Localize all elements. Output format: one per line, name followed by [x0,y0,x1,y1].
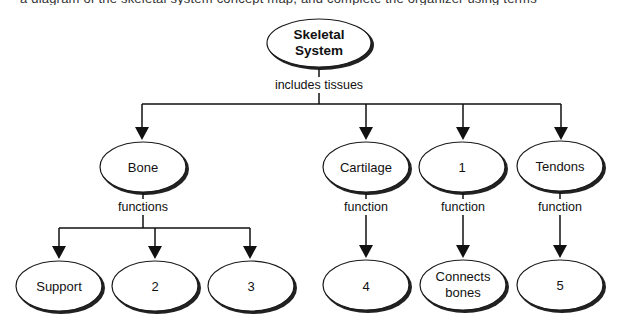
node-label: Support [36,279,82,294]
node-label-line2: bones [445,285,481,300]
arrowhead-icon [456,245,470,258]
node-label: 5 [556,278,563,293]
node-label-line1: Skeletal [293,27,344,42]
node-2: 2 [112,261,201,314]
node-4: 4 [323,260,412,313]
arrowhead-icon [148,246,162,259]
arrow-to-2 [148,228,162,259]
arrowhead-icon [243,246,257,259]
arrow-to-blank-1 [456,104,470,140]
arrowhead-icon [135,127,149,140]
node-cartilage: Cartilage [323,142,412,195]
arrowhead-icon [359,245,373,258]
node-label: 3 [247,279,254,294]
arrow-to-4 [359,215,373,258]
arrow-to-5 [553,215,567,258]
node-connects-bones: Connects bones [420,260,509,313]
arrow-to-3 [243,228,257,259]
arrowhead-icon [553,245,567,258]
node-label: Cartilage [340,160,392,175]
concept-map: Skeletal System includes tissues Bone Ca… [0,0,623,328]
arrow-to-bone [135,104,149,140]
node-5: 5 [517,260,606,313]
node-label: Bone [128,160,158,175]
arrow-to-tendons [554,104,568,140]
link-label-functions: functions [118,200,168,214]
node-label-line1: Connects [436,269,491,284]
node-skeletal-system: Skeletal System [267,19,374,70]
link-label-function: function [441,200,485,214]
arrowhead-icon [456,127,470,140]
link-label-function: function [344,200,388,214]
link-label-includes-tissues: includes tissues [275,78,363,92]
arrow-to-cartilage [359,104,373,140]
link-label-function: function [538,200,582,214]
arrow-to-support [52,228,66,259]
arrowhead-icon [554,127,568,140]
arrowhead-icon [359,127,373,140]
node-bone: Bone [100,142,189,195]
arrow-to-connects-bones [456,215,470,258]
node-label: 2 [151,279,158,294]
node-label: 4 [362,279,369,294]
node-label-line2: System [295,43,343,58]
arrowhead-icon [52,246,66,259]
node-label: 1 [458,160,465,175]
node-tendons: Tendons [517,141,606,194]
node-blank-1: 1 [419,142,508,195]
node-support: Support [16,261,105,314]
node-3: 3 [208,261,297,314]
node-label: Tendons [535,159,585,174]
